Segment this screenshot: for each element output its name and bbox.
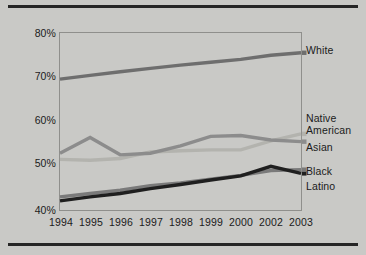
y-tick-50: 50% <box>22 157 56 169</box>
series-label-asian: Asian <box>306 141 333 154</box>
x-tick-1998: 1998 <box>164 216 198 228</box>
series-label-black: Black <box>306 165 332 178</box>
x-tick-1996: 1996 <box>104 216 138 228</box>
series-line-white <box>60 53 301 79</box>
x-tick-2003: 2003 <box>284 216 318 228</box>
y-tick-70: 70% <box>22 70 56 82</box>
y-tick-60: 60% <box>22 114 56 126</box>
x-tick-1994: 1994 <box>44 216 78 228</box>
series-label-latino: Latino <box>306 180 335 193</box>
x-tick-1999: 1999 <box>194 216 228 228</box>
chart-page: 80% 70% 60% 50% 40% 1994 1995 1996 1997 … <box>0 0 366 255</box>
x-tick-2002: 2002 <box>254 216 288 228</box>
x-tick-1997: 1997 <box>134 216 168 228</box>
series-label-native-american-line2: American <box>306 124 351 137</box>
series-label-white: White <box>306 44 333 57</box>
series-layer <box>60 53 301 201</box>
y-tick-80: 80% <box>22 27 56 39</box>
y-tick-40: 40% <box>22 204 56 216</box>
x-tick-1995: 1995 <box>74 216 108 228</box>
x-tick-2000: 2000 <box>224 216 258 228</box>
line-chart: 80% 70% 60% 50% 40% 1994 1995 1996 1997 … <box>0 0 366 255</box>
series-label-native-american-line1: Native <box>306 112 336 125</box>
